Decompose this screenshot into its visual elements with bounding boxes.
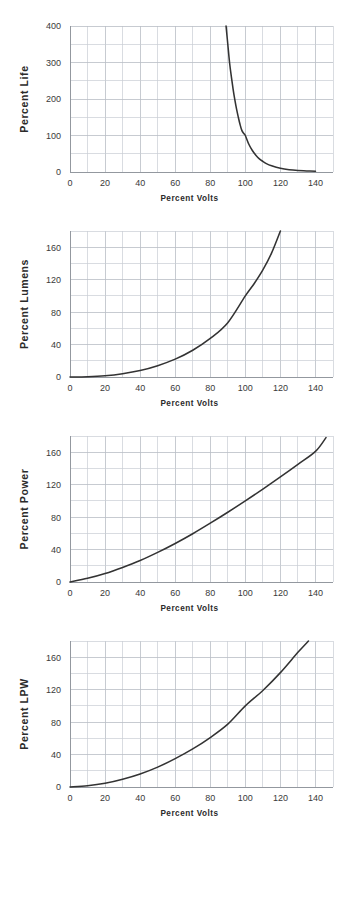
y-tick-label: 200 (46, 94, 61, 104)
x-tick-label: 100 (238, 383, 253, 393)
x-tick-label: 80 (205, 383, 215, 393)
y-axis-title: Percent Lumens (18, 259, 30, 349)
x-tick-label: 140 (308, 178, 323, 188)
y-tick-label: 300 (46, 58, 61, 68)
y-tick-label: 0 (56, 167, 61, 177)
y-tick-label: 40 (51, 750, 61, 760)
x-tick-label: 40 (135, 793, 145, 803)
x-tick-label: 40 (135, 383, 145, 393)
chart-panel-percent-life: 0204060801001201400100200300400Percent V… (0, 0, 349, 205)
y-axis-title: Percent LPW (18, 678, 30, 749)
data-curve (70, 438, 326, 582)
x-tick-label: 140 (308, 793, 323, 803)
x-tick-label: 60 (170, 793, 180, 803)
y-tick-label: 40 (51, 545, 61, 555)
x-tick-label: 20 (100, 178, 110, 188)
x-tick-label: 0 (67, 588, 72, 598)
y-tick-label: 80 (51, 718, 61, 728)
y-tick-label: 160 (46, 243, 61, 253)
chart-panel-percent-lumens: 02040608010012014004080120160Percent Vol… (0, 205, 349, 410)
x-tick-label: 0 (67, 178, 72, 188)
x-tick-label: 0 (67, 383, 72, 393)
x-tick-label: 0 (67, 793, 72, 803)
x-tick-label: 120 (273, 178, 288, 188)
y-tick-label: 80 (51, 513, 61, 523)
x-tick-label: 100 (238, 178, 253, 188)
x-axis-title: Percent Volts (160, 604, 218, 613)
x-tick-label: 120 (273, 383, 288, 393)
y-tick-label: 80 (51, 308, 61, 318)
y-tick-label: 120 (46, 275, 61, 285)
x-axis-title: Percent Volts (160, 809, 218, 818)
chart-panel-percent-power: 02040608010012014004080120160Percent Vol… (0, 410, 349, 615)
y-tick-label: 0 (56, 577, 61, 587)
y-tick-label: 0 (56, 372, 61, 382)
y-axis-title: Percent Life (18, 65, 30, 132)
y-tick-label: 400 (46, 21, 61, 31)
y-tick-label: 0 (56, 782, 61, 792)
y-tick-label: 160 (46, 653, 61, 663)
x-tick-label: 40 (135, 588, 145, 598)
x-tick-label: 60 (170, 178, 180, 188)
x-tick-label: 140 (308, 383, 323, 393)
x-tick-label: 40 (135, 178, 145, 188)
data-curve (70, 641, 308, 787)
y-tick-label: 40 (51, 340, 61, 350)
x-tick-label: 20 (100, 793, 110, 803)
y-tick-label: 160 (46, 448, 61, 458)
x-tick-label: 60 (170, 383, 180, 393)
x-tick-label: 140 (308, 588, 323, 598)
y-tick-label: 100 (46, 131, 61, 141)
x-tick-label: 80 (205, 588, 215, 598)
x-tick-label: 100 (238, 793, 253, 803)
y-tick-label: 120 (46, 480, 61, 490)
x-axis-title: Percent Volts (160, 399, 218, 408)
x-tick-label: 20 (100, 588, 110, 598)
x-tick-label: 20 (100, 383, 110, 393)
x-tick-label: 80 (205, 793, 215, 803)
x-axis-title: Percent Volts (160, 194, 218, 203)
y-axis-title: Percent Power (18, 469, 30, 550)
x-tick-label: 120 (273, 793, 288, 803)
y-tick-label: 120 (46, 685, 61, 695)
x-tick-label: 80 (205, 178, 215, 188)
x-tick-label: 60 (170, 588, 180, 598)
x-tick-label: 120 (273, 588, 288, 598)
stacked-line-chart-figure: 0204060801001201400100200300400Percent V… (0, 0, 349, 906)
chart-panel-percent-lpw: 02040608010012014004080120160Percent Vol… (0, 615, 349, 820)
x-tick-label: 100 (238, 588, 253, 598)
